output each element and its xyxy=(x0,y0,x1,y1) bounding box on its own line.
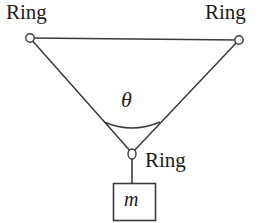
diagram-canvas xyxy=(0,0,280,223)
ring-right-label: Ring xyxy=(205,2,246,23)
ring-bottom-node xyxy=(128,149,136,159)
top-cable xyxy=(30,38,239,40)
angle-theta-label: θ xyxy=(121,89,132,111)
left-cable xyxy=(30,38,132,153)
physics-diagram: Ring Ring Ring θ m xyxy=(0,0,280,223)
ring-bottom-label: Ring xyxy=(145,150,186,171)
ring-right-node xyxy=(235,36,243,44)
right-cable xyxy=(132,40,239,153)
mass-label: m xyxy=(124,189,138,209)
ring-left-node xyxy=(26,34,34,42)
angle-arc xyxy=(104,122,160,128)
ring-left-label: Ring xyxy=(6,2,47,23)
